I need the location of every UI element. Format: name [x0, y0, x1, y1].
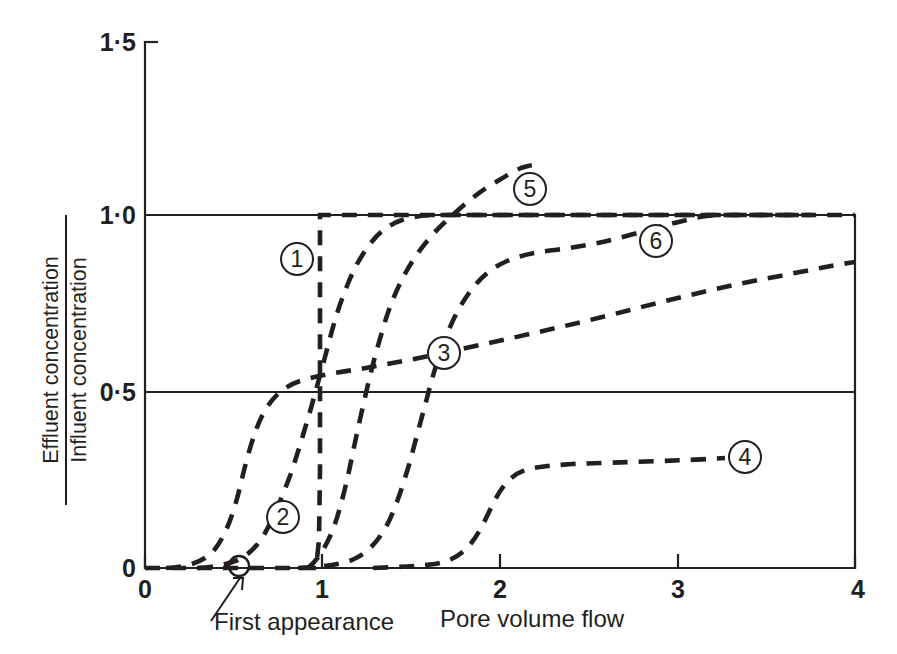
x-tick-label-3: 3 [671, 575, 685, 603]
curve-label-4-text: 4 [739, 444, 752, 470]
x-tick-labels: 0 1 2 3 4 [138, 575, 865, 603]
first-appearance-label: First appearance [214, 608, 394, 635]
curve-labels-group: 1 2 3 4 5 6 [267, 173, 761, 533]
x-tick-label-1: 1 [315, 575, 329, 603]
x-tick-label-4: 4 [851, 575, 865, 603]
curve-label-4: 4 [729, 441, 761, 473]
curve-label-1-text: 1 [291, 246, 304, 272]
curve-5 [308, 165, 535, 568]
y-tick-labels: 1·5 1·0 0·5 0 [100, 28, 136, 582]
curves-group [145, 165, 855, 568]
figure-container: 0 1 2 3 4 1·5 1·0 0·5 0 Effluent concent… [0, 0, 897, 654]
y-axis-title: Effluent concentration Influent concentr… [39, 215, 91, 505]
y-tick-label-1-0: 1·0 [100, 201, 136, 229]
x-axis-title: Pore volume flow [440, 605, 625, 632]
y-axis-title-denominator: Influent concentration [67, 257, 91, 463]
x-tick-label-2: 2 [493, 575, 507, 603]
y-tick-label-1-5: 1·5 [100, 28, 136, 56]
curve-label-6-text: 6 [650, 228, 663, 254]
curve-label-2: 2 [267, 501, 299, 533]
y-tick-label-0: 0 [122, 554, 136, 582]
breakthrough-curve-chart: 0 1 2 3 4 1·5 1·0 0·5 0 Effluent concent… [0, 0, 897, 654]
curve-label-3-text: 3 [438, 340, 451, 366]
curve-label-2-text: 2 [277, 504, 290, 530]
x-tick-label-0: 0 [138, 575, 152, 603]
curve-label-5-text: 5 [524, 176, 537, 202]
curve-4 [373, 458, 725, 568]
curve-label-3: 3 [428, 337, 460, 369]
y-axis-title-numerator: Effluent concentration [39, 256, 63, 464]
curve-label-5: 5 [514, 173, 546, 205]
y-tick-label-0-5: 0·5 [100, 378, 136, 406]
curve-label-1: 1 [281, 243, 313, 275]
curve-label-6: 6 [640, 225, 672, 257]
